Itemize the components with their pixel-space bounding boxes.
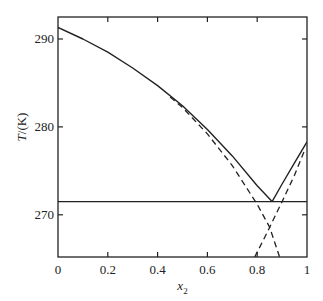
x-axis-label: x2 [176, 278, 187, 296]
x-tick-label: 1 [304, 262, 311, 277]
y-tick-label: 270 [35, 207, 55, 222]
x-tick-label: 0.2 [100, 262, 116, 277]
plot-frame [58, 17, 307, 257]
series-dashed-2 [170, 97, 280, 257]
x-tick-label: 0.8 [249, 262, 265, 277]
x-tick-label: 0 [55, 262, 62, 277]
y-tick-label: 290 [35, 31, 55, 46]
x-tick-label: 0.6 [199, 262, 216, 277]
y-tick-label: 280 [35, 119, 55, 134]
chart: 00.20.40.60.81270280290x2T/(K) [0, 0, 323, 301]
series-solid-0 [58, 28, 272, 202]
series-dashed-3 [255, 151, 305, 257]
y-axis-label: T/(K) [14, 113, 29, 142]
series-solid-1 [272, 142, 307, 202]
x-tick-label: 0.4 [149, 262, 166, 277]
axes [58, 17, 307, 257]
plot-area [58, 28, 307, 258]
